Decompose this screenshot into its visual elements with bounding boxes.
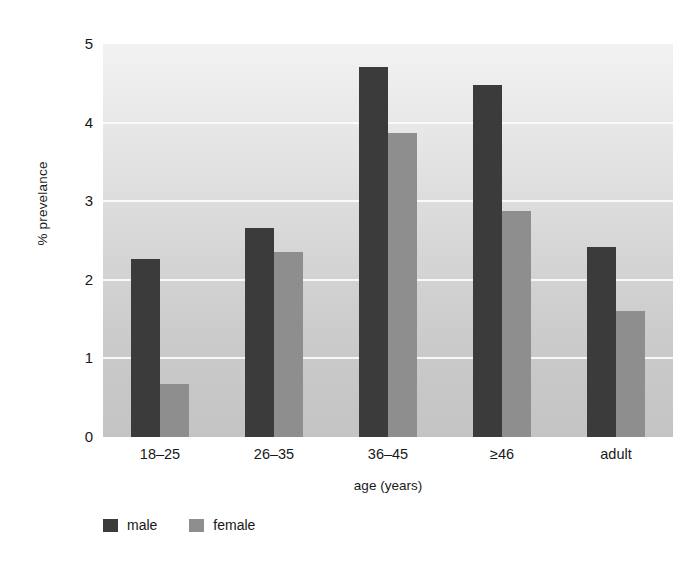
x-tick-label: 36–45: [331, 446, 445, 462]
bar-female-adult: [616, 311, 645, 437]
legend-entry-male: male: [103, 518, 157, 532]
y-tick-label: 4: [60, 115, 93, 130]
bar-male-1825: [131, 259, 160, 437]
y-axis-tick-labels: 012345: [60, 0, 93, 562]
gridline: [103, 122, 673, 124]
y-tick-label: 2: [60, 272, 93, 287]
bar-female-1825: [160, 384, 189, 437]
y-tick-label: 1: [60, 350, 93, 365]
legend-label: female: [213, 518, 255, 532]
bar-female-3645: [388, 133, 417, 437]
legend-swatch-icon: [103, 519, 118, 532]
bar-male-2635: [245, 228, 274, 437]
bar-chart-figure: % prevelance 012345 18–2526–3536–45≥46ad…: [0, 0, 698, 562]
x-axis-tick-labels: 18–2526–3536–45≥46adult: [103, 446, 673, 468]
plot-area: [103, 44, 673, 437]
legend-entry-female: female: [189, 518, 255, 532]
bar-female-2635: [274, 252, 303, 437]
bar-male-adult: [587, 247, 616, 437]
y-tick-label: 5: [60, 36, 93, 51]
x-axis-title: age (years): [103, 478, 673, 493]
x-tick-label: ≥46: [445, 446, 559, 462]
y-tick-label: 0: [60, 429, 93, 444]
bar-male-3645: [359, 67, 388, 437]
x-tick-label: 26–35: [217, 446, 331, 462]
y-axis-title: % prevelance: [35, 124, 50, 284]
bar-female-46: [502, 211, 531, 437]
x-tick-label: 18–25: [103, 446, 217, 462]
legend-swatch-icon: [189, 519, 204, 532]
chart-legend: malefemale: [103, 518, 255, 532]
bar-male-46: [473, 85, 502, 437]
legend-label: male: [127, 518, 157, 532]
y-tick-label: 3: [60, 193, 93, 208]
x-tick-label: adult: [559, 446, 673, 462]
